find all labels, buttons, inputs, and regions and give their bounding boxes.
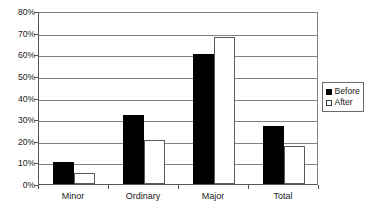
x-axis-label-major: Major: [178, 191, 248, 201]
x-axis-label-ordinary: Ordinary: [108, 191, 178, 201]
x-axis-label-total: Total: [248, 191, 318, 201]
y-tick-label: 40%: [0, 94, 35, 104]
filled-square-icon: [326, 89, 332, 95]
y-tick-label: 0%: [0, 180, 35, 190]
bar-ordinary-after: [144, 140, 165, 184]
y-tick-label: 50%: [0, 72, 35, 82]
bars-layer: [39, 13, 317, 184]
y-tick-label: 70%: [0, 29, 35, 39]
y-tick-label: 10%: [0, 158, 35, 168]
x-axis-label-minor: Minor: [38, 191, 108, 201]
bar-chart: 0%10%20%30%40%50%60%70%80% MinorOrdinary…: [0, 0, 371, 211]
legend-label: Before: [335, 86, 360, 97]
legend-item-after: After: [326, 97, 360, 108]
x-tick-mark: [108, 185, 109, 189]
legend-label: After: [335, 97, 353, 108]
x-tick-mark: [38, 185, 39, 189]
bar-total-before: [263, 126, 284, 184]
x-tick-mark: [248, 185, 249, 189]
bar-major-after: [214, 37, 235, 184]
y-tick-label: 20%: [0, 137, 35, 147]
outlined-square-icon: [326, 100, 332, 106]
bar-major-before: [193, 54, 214, 184]
y-tick-label: 30%: [0, 115, 35, 125]
x-tick-mark: [178, 185, 179, 189]
legend-item-before: Before: [326, 86, 360, 97]
plot-area: [38, 12, 318, 185]
bar-ordinary-before: [123, 115, 144, 184]
bar-minor-before: [53, 162, 74, 184]
chart-legend: BeforeAfter: [322, 82, 364, 112]
bar-total-after: [284, 146, 305, 184]
y-tick-label: 80%: [0, 7, 35, 17]
bar-minor-after: [74, 173, 95, 184]
y-tick-label: 60%: [0, 50, 35, 60]
x-tick-mark: [318, 185, 319, 189]
